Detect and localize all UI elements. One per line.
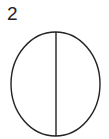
divided-ellipse-diagram — [0, 0, 109, 139]
